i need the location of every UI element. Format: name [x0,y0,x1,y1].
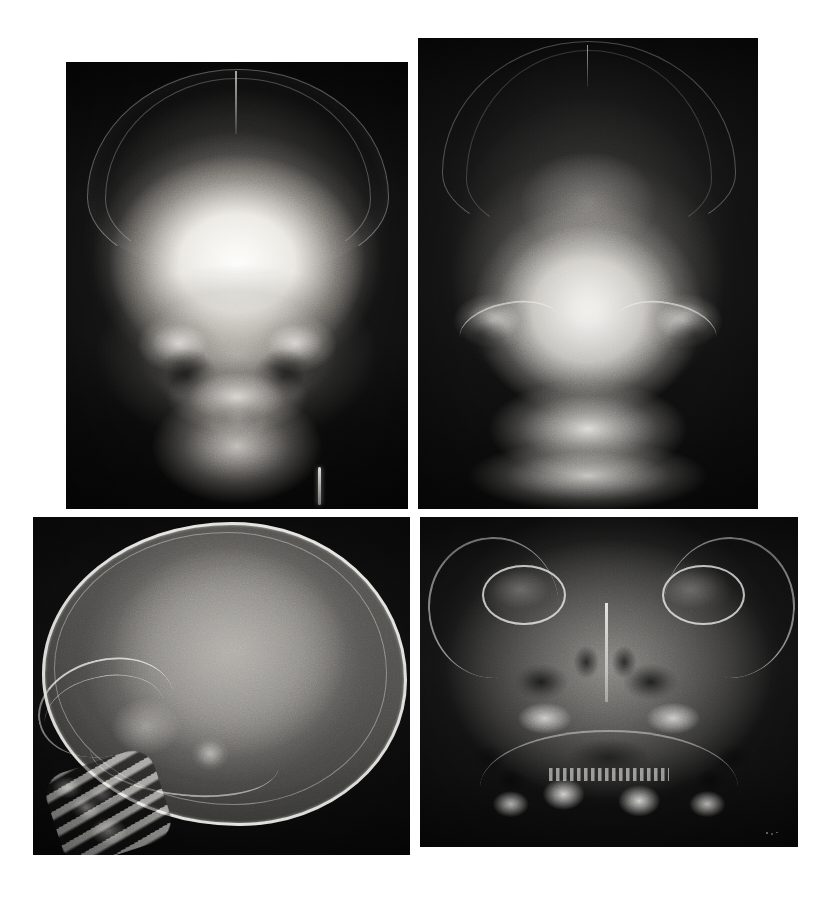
mandible-arc [480,730,737,844]
radiograph-figure [0,0,830,905]
xray-panel-ap-skull[interactable] [66,62,408,509]
xray-panel-waters-view[interactable] [420,517,798,847]
metal-marker-icon [318,467,321,505]
xray-panel-townes-view[interactable] [418,38,758,509]
orbit-left [482,565,565,625]
nasal-septum [605,603,607,702]
film-artefact-speck-icon [765,831,779,836]
ap-midline-suture [235,71,237,134]
xray-panel-lateral-skull[interactable] [33,517,410,855]
orbit-right [662,565,745,625]
townes-midline-suture [587,45,589,87]
